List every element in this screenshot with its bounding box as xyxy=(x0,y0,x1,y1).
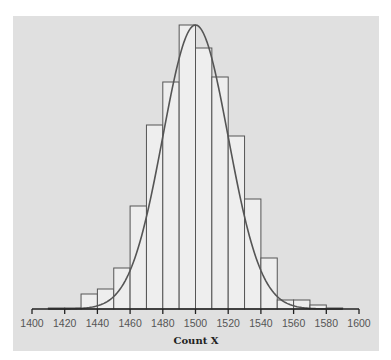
x-tick-label: 1600 xyxy=(347,317,371,329)
x-tick-label: 1500 xyxy=(184,317,208,329)
x-tick-label: 1580 xyxy=(315,317,339,329)
x-tick-label: 1440 xyxy=(86,317,110,329)
x-tick-label: 1420 xyxy=(53,317,77,329)
x-tick-label: 1480 xyxy=(151,317,175,329)
x-tick-label: 1400 xyxy=(20,317,44,329)
x-tick-label: 1560 xyxy=(282,317,306,329)
histogram-chart: 1400142014401460148015001520154015601580… xyxy=(0,0,391,360)
x-tick-label: 1520 xyxy=(217,317,241,329)
x-axis: 1400142014401460148015001520154015601580… xyxy=(20,309,371,329)
histogram-bar-1480-1490 xyxy=(163,82,179,309)
histogram-bar-1460-1470 xyxy=(130,206,146,309)
histogram-bar-1520-1530 xyxy=(228,136,244,309)
histogram-bar-1530-1540 xyxy=(245,199,261,309)
histogram-bar-1540-1550 xyxy=(261,258,277,309)
histogram-bar-1500-1510 xyxy=(196,48,212,309)
x-tick-label: 1460 xyxy=(118,317,142,329)
histogram-bar-1490-1500 xyxy=(179,25,195,309)
x-axis-title: Count X xyxy=(173,335,218,346)
histogram-bar-1510-1520 xyxy=(212,77,228,309)
x-tick-label: 1540 xyxy=(249,317,273,329)
histogram-bars xyxy=(48,25,342,309)
